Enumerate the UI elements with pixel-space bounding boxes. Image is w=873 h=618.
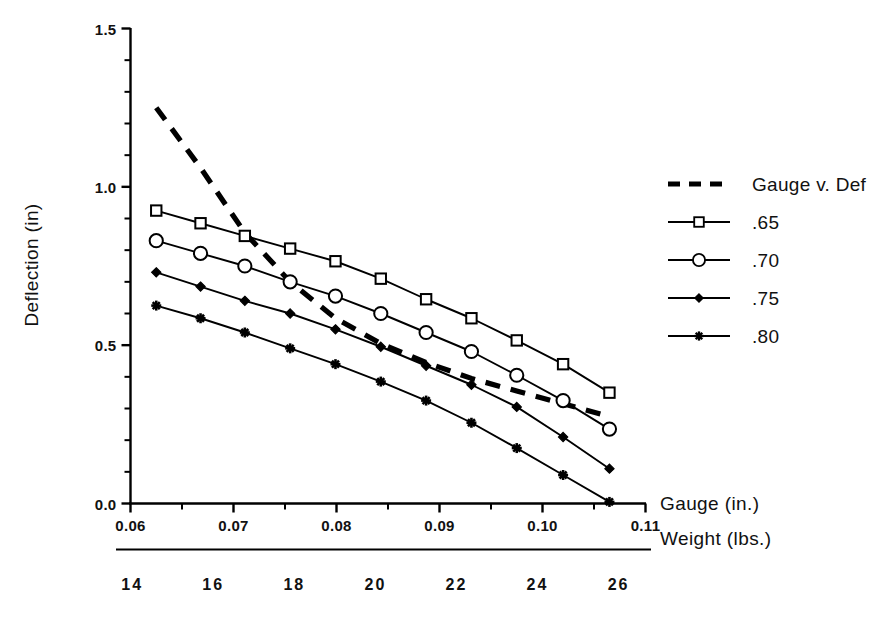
marker-open-circle xyxy=(603,422,616,435)
weight-tick-label: 26 xyxy=(608,576,630,593)
weight-tick-label: 16 xyxy=(202,576,224,593)
marker-open-circle xyxy=(374,307,387,320)
legend-label: .75 xyxy=(752,288,779,309)
x-tick-label: 0.10 xyxy=(527,517,557,534)
marker-open-circle xyxy=(194,247,207,260)
y-axis-title: Deflection (in) xyxy=(21,203,42,326)
weight-tick-label: 18 xyxy=(283,576,305,593)
legend-label: .80 xyxy=(752,326,779,347)
marker-open-circle xyxy=(465,345,478,358)
marker-open-square xyxy=(421,294,431,304)
y-tick-label: 0.5 xyxy=(95,337,117,354)
legend-label: Gauge v. Def xyxy=(752,174,867,195)
marker-star xyxy=(558,470,568,480)
marker-open-circle xyxy=(329,289,342,302)
marker-star xyxy=(196,313,206,323)
y-tick-label: 0.0 xyxy=(95,496,117,513)
weight-tick-label: 24 xyxy=(527,576,549,593)
marker-open-square xyxy=(195,218,205,228)
marker-open-circle xyxy=(510,369,523,382)
marker-star xyxy=(240,328,250,338)
marker-open-square xyxy=(330,256,340,266)
marker-open-circle xyxy=(693,254,705,266)
deflection-vs-gauge-chart: 0.00.51.01.5 Deflection (in) 0.060.070.0… xyxy=(0,0,873,618)
weight-tick-label: 14 xyxy=(121,576,143,593)
x-tick-label: 0.09 xyxy=(424,517,454,534)
marker-open-square xyxy=(694,217,704,227)
x-tick-label: 0.11 xyxy=(631,517,661,534)
x-tick-label: 0.07 xyxy=(218,517,248,534)
x-tick-label: 0.08 xyxy=(321,517,351,534)
marker-open-square xyxy=(512,335,522,345)
marker-open-square xyxy=(466,313,476,323)
marker-star xyxy=(512,443,522,453)
marker-star xyxy=(421,396,431,406)
weight-tick-label: 20 xyxy=(364,576,386,593)
marker-star xyxy=(330,359,340,369)
x-tick-label: 0.06 xyxy=(115,517,145,534)
weight-tick-label: 22 xyxy=(446,576,468,593)
x-axis-title: Gauge (in.) xyxy=(660,493,759,514)
marker-open-square xyxy=(240,231,250,241)
marker-open-circle xyxy=(420,326,433,339)
marker-open-square xyxy=(376,273,386,283)
marker-open-circle xyxy=(284,275,297,288)
marker-star xyxy=(151,301,161,311)
marker-star xyxy=(285,343,295,353)
marker-open-circle xyxy=(238,259,251,272)
marker-star xyxy=(376,377,386,387)
y-tick-label: 1.5 xyxy=(95,21,117,38)
marker-open-square xyxy=(604,387,614,397)
marker-star xyxy=(466,418,476,428)
marker-star xyxy=(604,497,614,507)
y-tick-label: 1.0 xyxy=(95,179,117,196)
marker-open-circle xyxy=(150,234,163,247)
legend-label: .65 xyxy=(752,212,779,233)
marker-star xyxy=(694,331,703,340)
legend-label: .70 xyxy=(752,250,779,271)
marker-open-circle xyxy=(557,394,570,407)
marker-open-square xyxy=(151,205,161,215)
marker-open-square xyxy=(285,243,295,253)
weight-axis-title: Weight (lbs.) xyxy=(660,528,772,549)
marker-open-square xyxy=(558,359,568,369)
